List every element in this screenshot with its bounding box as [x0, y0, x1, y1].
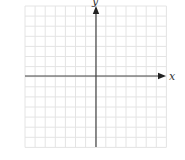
x-axis-label: x: [169, 70, 176, 83]
coordinate-plane: x y: [0, 0, 185, 160]
x-axis-arrow-icon: [158, 73, 166, 79]
y-axis-label: y: [91, 0, 99, 8]
